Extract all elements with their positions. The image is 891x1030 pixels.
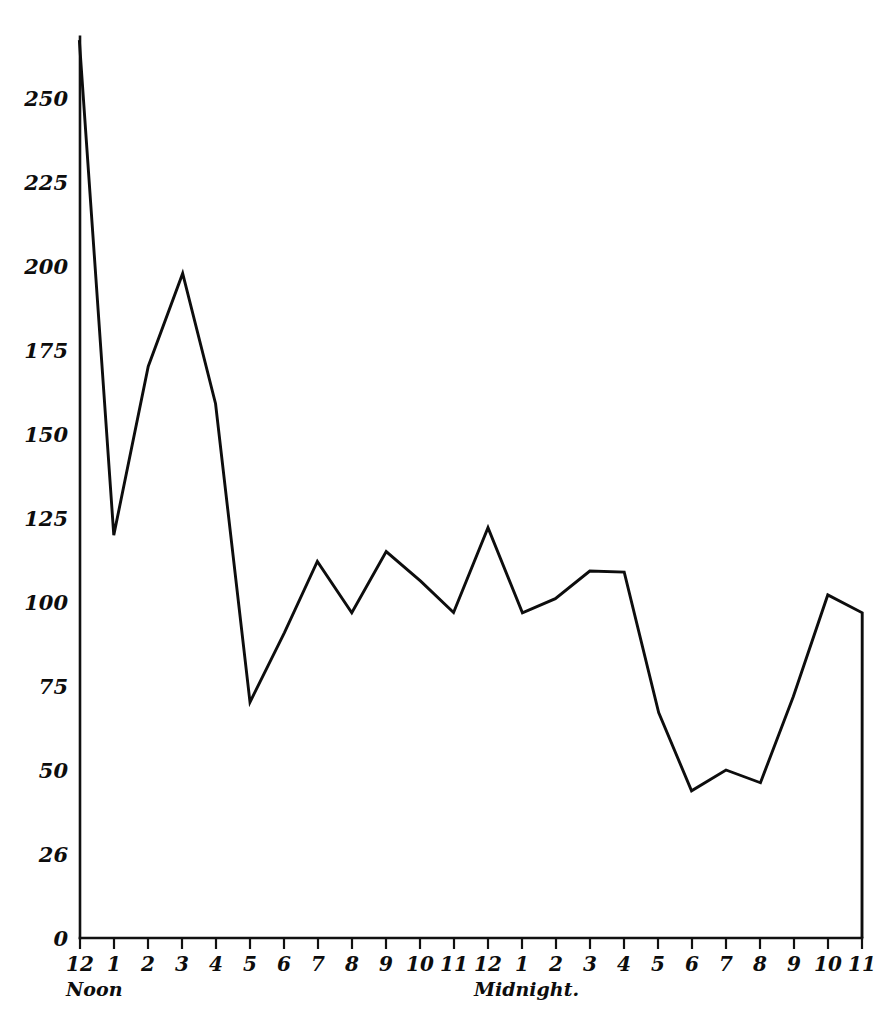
x-axis-tick-label: 1 [515,952,529,976]
x-axis-tick-label: 12 [474,952,502,976]
x-axis-tick-label: 7 [719,952,733,976]
x-axis-anchor-label: Noon [65,978,123,1000]
x-axis-anchor-labels: NoonMidnight. [65,978,579,1000]
x-axis-tick-label: 2 [140,952,155,976]
x-axis-tick-label: 6 [685,952,699,976]
y-axis-tick-labels: 0265075100125150175200225250 [23,86,68,951]
x-axis-tick-label: 11 [440,952,468,976]
x-axis-tick-label: 3 [583,952,597,976]
y-axis-tick-label: 175 [24,338,68,363]
y-axis-tick-label: 125 [24,506,68,531]
chart-page: 0265075100125150175200225250 12123456789… [0,0,891,1030]
y-axis-tick-label: 200 [23,254,68,279]
x-axis-ticks-group [80,938,862,949]
x-axis-tick-label: 3 [175,952,189,976]
x-axis-tick-labels: 121234567891011121234567891011 [66,952,876,976]
x-axis-tick-label: 8 [344,952,359,976]
x-axis-tick-label: 10 [406,952,434,976]
x-axis-tick-label: 5 [651,952,665,976]
x-axis-tick-label: 4 [209,952,223,976]
data-series-line [79,40,862,938]
line-chart: 0265075100125150175200225250 12123456789… [0,0,891,1030]
y-axis-tick-label: 75 [39,674,68,699]
x-axis-tick-label: 2 [548,952,563,976]
x-axis-tick-label: 1 [107,952,121,976]
y-axis-tick-label: 225 [23,170,68,195]
x-axis-tick-label: 6 [277,952,291,976]
y-axis-tick-label: 50 [39,758,69,783]
axes-group [80,37,862,938]
x-axis-tick-label: 10 [814,952,842,976]
y-axis-tick-label: 0 [53,926,68,951]
y-axis-tick-label: 150 [24,422,68,447]
data-series-group [79,40,862,938]
x-axis-tick-label: 11 [848,952,876,976]
x-axis-tick-label: 12 [66,952,94,976]
x-axis-anchor-label: Midnight. [473,978,579,1000]
x-axis-tick-label: 9 [379,952,393,976]
y-axis-tick-label: 100 [24,590,68,615]
x-axis-tick-label: 4 [617,952,631,976]
x-axis-tick-label: 8 [752,952,767,976]
x-axis-tick-label: 7 [311,952,325,976]
x-axis-tick-label: 5 [243,952,257,976]
y-axis-tick-label: 250 [23,86,68,111]
x-axis-tick-label: 9 [787,952,801,976]
y-axis-tick-label: 26 [38,842,69,867]
